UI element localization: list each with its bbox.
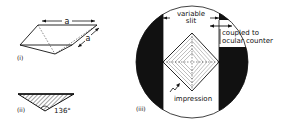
coupled-label-2: ocular counter (222, 37, 273, 45)
panel-ii-label: (ii) (17, 106, 25, 113)
right-shutter-top (219, 6, 259, 20)
panel-i-label: (i) (17, 54, 23, 61)
indentation-diagram: a a (i) (ii) 136° (0, 0, 300, 127)
left-shutter (130, 0, 163, 127)
impression-label: impression (174, 95, 212, 103)
right-shutter (219, 47, 259, 127)
variable-slit-label-2: slit (186, 17, 197, 25)
panel-iii-label: (iii) (136, 105, 146, 112)
angle-label: 136° (54, 107, 71, 115)
dimension-a-top: a (65, 17, 70, 26)
coupled-label-1: coupled to (222, 29, 259, 37)
dimension-a-side: a (86, 34, 91, 43)
